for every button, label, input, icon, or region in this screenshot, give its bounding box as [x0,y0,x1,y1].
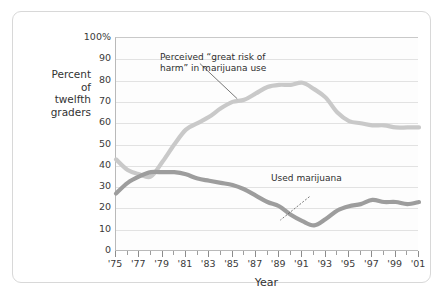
x-axis-tick-mark [325,251,326,257]
y-axis-tick-label: 0 [69,244,111,255]
x-axis-tick-label: '87 [247,258,262,269]
x-axis-tick-mark [360,251,361,255]
x-axis-tick-mark [220,251,221,255]
x-axis-tick-mark [127,251,128,255]
y-axis-tick-label: 10 [69,223,111,234]
x-axis-tick-label: '83 [201,258,216,269]
x-axis-tick-mark [185,251,186,257]
y-axis-tick-label: 30 [69,180,111,191]
y-axis-tick-label: 60 [69,116,111,127]
x-axis-tick-mark [267,251,268,255]
x-axis-tick-mark [173,251,174,255]
x-axis-tick-mark [336,251,337,255]
x-axis-tick-mark [290,251,291,255]
x-axis-tick-mark [162,251,163,257]
y-axis-tick-label: 20 [69,201,111,212]
x-axis-tick-mark [138,251,139,257]
x-axis-tick-mark [371,251,372,257]
x-axis-tick-label: '95 [341,258,356,269]
series-line-perceived-risk [116,83,419,178]
x-axis-tick-mark [406,251,407,255]
x-axis-tick-label: '77 [131,258,146,269]
x-axis-tick-label: '93 [317,258,332,269]
x-axis-tick-mark [232,251,233,257]
x-axis-tick-mark [348,251,349,257]
y-axis-tick-label: 50 [69,138,111,149]
chart-figure: Percent of twelfth graders 100%908070605… [12,11,431,283]
annotation-used-marijuana: Used marijuana [271,173,342,184]
x-axis-tick-mark [301,251,302,257]
y-axis-tick-label: 90 [69,52,111,63]
x-axis-tick-mark [278,251,279,257]
x-axis-tick-mark [313,251,314,255]
x-axis-tick-label: '81 [178,258,193,269]
x-axis [115,250,418,258]
x-axis-tick-mark [150,251,151,255]
y-axis-tick-label: 100% [69,31,111,42]
x-axis-tick-label: '89 [271,258,286,269]
x-axis-tick-label: '85 [224,258,239,269]
y-axis-tick-label: 40 [69,159,111,170]
x-axis-tick-labels: '75'77'79'81'83'85'87'89'91'93'95'97'99'… [115,258,418,272]
x-axis-title: Year [115,276,418,289]
x-axis-tick-label: '97 [364,258,379,269]
x-axis-tick-mark [395,251,396,257]
y-axis-tick-label: 80 [69,74,111,85]
x-axis-tick-mark [243,251,244,255]
y-axis-tick-labels: 100%9080706050403020100 [67,37,111,250]
x-axis-tick-mark [197,251,198,255]
x-axis-tick-label: '01 [411,258,426,269]
x-axis-tick-mark [208,251,209,257]
x-axis-tick-mark [383,251,384,255]
x-axis-tick-mark [418,251,419,257]
x-axis-tick-label: '79 [154,258,169,269]
annotation-perceived-risk: Perceived “great risk of harm” in mariju… [160,52,266,74]
x-axis-tick-mark [255,251,256,257]
x-axis-tick-mark [115,251,116,257]
series-line-used-marijuana [116,172,419,226]
y-axis-tick-label: 70 [69,95,111,106]
x-axis-tick-label: '99 [387,258,402,269]
x-axis-tick-label: '91 [294,258,309,269]
x-axis-tick-label: '75 [108,258,123,269]
